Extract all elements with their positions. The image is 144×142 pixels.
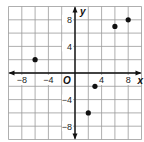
- x-tick-label: −4: [43, 75, 53, 85]
- x-axis-label: x: [137, 75, 144, 86]
- data-point: [126, 17, 131, 22]
- origin-label: O: [63, 75, 71, 86]
- y-tick-label: 4: [67, 42, 72, 52]
- y-axis-label: y: [79, 6, 86, 17]
- y-tick-label: 8: [67, 15, 72, 25]
- data-point: [112, 24, 117, 29]
- data-points: [33, 17, 131, 115]
- y-axis-down-arrow-icon: [73, 134, 78, 140]
- y-tick-label: −8: [62, 122, 72, 132]
- x-tick-label: 4: [99, 75, 104, 85]
- data-point: [92, 84, 97, 89]
- data-point: [86, 110, 91, 115]
- y-axis-up-arrow-icon: [73, 7, 78, 13]
- axes: [9, 7, 142, 140]
- y-tick-label: −4: [62, 95, 72, 105]
- data-point: [33, 57, 38, 62]
- x-axis-left-arrow-icon: [9, 71, 15, 76]
- x-tick-label: −8: [17, 75, 27, 85]
- scatter-plot: −8−44884−4−8 x y O: [0, 0, 144, 142]
- x-tick-label: 8: [126, 75, 131, 85]
